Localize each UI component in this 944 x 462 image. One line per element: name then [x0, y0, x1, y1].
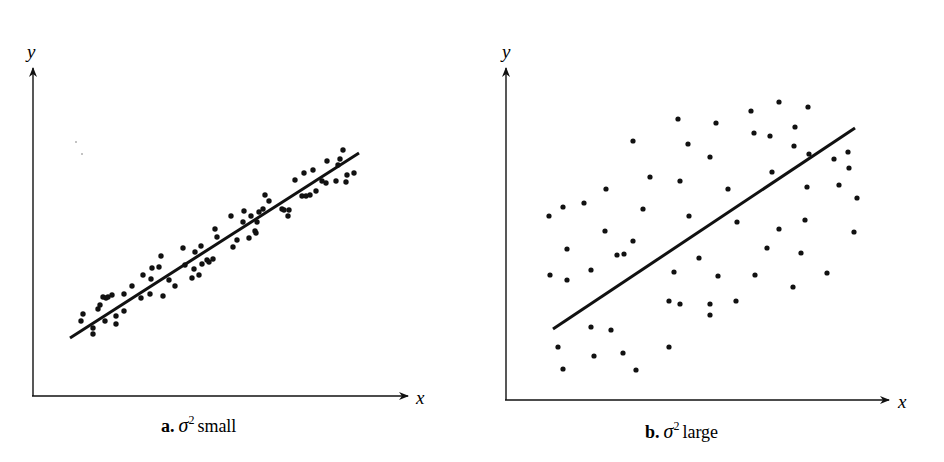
- data-point: [686, 213, 691, 218]
- data-point: [769, 169, 774, 174]
- panel-b: y x b.σ2large: [500, 41, 907, 442]
- data-point: [121, 291, 126, 296]
- data-point: [846, 165, 851, 170]
- data-point: [344, 172, 349, 177]
- data-point: [564, 277, 569, 282]
- data-point: [621, 251, 626, 256]
- data-point: [285, 213, 290, 218]
- data-point: [230, 244, 235, 249]
- data-point: [831, 156, 836, 161]
- data-point: [158, 253, 163, 258]
- data-point: [248, 213, 253, 218]
- data-point: [588, 324, 593, 329]
- panel-a-x-label: x: [415, 387, 425, 408]
- data-point: [253, 230, 258, 235]
- data-point: [262, 192, 267, 197]
- data-point: [286, 207, 291, 212]
- data-point: [109, 292, 114, 297]
- data-point: [214, 234, 219, 239]
- data-point: [715, 273, 720, 278]
- data-point: [671, 269, 676, 274]
- data-point: [851, 229, 856, 234]
- data-point: [138, 295, 143, 300]
- data-point: [160, 293, 165, 298]
- data-point: [351, 170, 356, 175]
- data-point: [560, 366, 565, 371]
- data-point: [343, 179, 348, 184]
- data-point: [614, 252, 619, 257]
- data-point: [166, 277, 171, 282]
- panel-a-regression-line: [70, 153, 359, 338]
- data-point: [241, 208, 246, 213]
- data-point: [266, 198, 271, 203]
- data-point: [804, 184, 809, 189]
- data-point: [792, 124, 797, 129]
- data-point: [192, 249, 197, 254]
- panel-a-caption: a.σ2small: [161, 413, 236, 436]
- data-point: [767, 133, 772, 138]
- data-point: [324, 158, 329, 163]
- panel-b-regression-line: [553, 128, 855, 329]
- panel-a: y x a.σ2small: [25, 41, 425, 436]
- data-point: [246, 235, 251, 240]
- data-point: [97, 302, 102, 307]
- data-point: [310, 167, 315, 172]
- data-point: [798, 250, 803, 255]
- data-point: [189, 275, 194, 280]
- data-point: [90, 331, 95, 336]
- data-point: [555, 344, 560, 349]
- data-point: [666, 298, 671, 303]
- data-point: [666, 344, 671, 349]
- data-point: [121, 308, 126, 313]
- data-point: [564, 246, 569, 251]
- data-point: [791, 143, 796, 148]
- data-point: [281, 207, 286, 212]
- data-point: [608, 327, 613, 332]
- data-point: [560, 204, 565, 209]
- panel-b-data-points: [546, 99, 859, 372]
- data-point: [805, 104, 810, 109]
- data-point: [113, 313, 118, 318]
- data-point: [191, 266, 196, 271]
- data-point: [546, 213, 551, 218]
- data-point: [196, 272, 201, 277]
- data-point: [748, 108, 753, 113]
- data-point: [776, 99, 781, 104]
- panel-b-caption: b.σ2large: [645, 419, 718, 442]
- data-point: [790, 284, 795, 289]
- data-point: [147, 291, 152, 296]
- data-point: [802, 217, 807, 222]
- data-point: [707, 301, 712, 306]
- data-point: [113, 321, 118, 326]
- data-point: [148, 276, 153, 281]
- data-point: [633, 367, 638, 372]
- data-point: [685, 141, 690, 146]
- data-point: [313, 188, 318, 193]
- data-point: [588, 267, 593, 272]
- data-point: [340, 147, 345, 152]
- data-point: [630, 138, 635, 143]
- data-point: [836, 182, 841, 187]
- data-point: [333, 178, 338, 183]
- data-point: [78, 318, 83, 323]
- data-point: [180, 245, 185, 250]
- panel-b-x-label: x: [897, 391, 907, 412]
- data-point: [228, 213, 233, 218]
- data-point: [603, 186, 608, 191]
- data-point: [172, 283, 177, 288]
- data-point: [630, 238, 635, 243]
- data-point: [581, 200, 586, 205]
- data-point: [733, 298, 738, 303]
- data-point: [80, 311, 85, 316]
- data-point: [547, 272, 552, 277]
- data-point: [647, 174, 652, 179]
- data-point: [337, 156, 342, 161]
- data-point: [707, 312, 712, 317]
- data-point: [620, 350, 625, 355]
- data-point: [140, 272, 145, 277]
- data-point: [210, 256, 215, 261]
- data-point: [260, 206, 265, 211]
- data-point: [677, 301, 682, 306]
- data-point: [752, 272, 757, 277]
- data-point: [149, 265, 154, 270]
